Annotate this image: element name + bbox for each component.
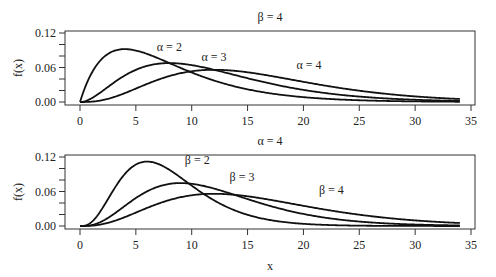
x-tick-label: 25 xyxy=(353,114,365,128)
y-tick-label: 0.00 xyxy=(35,219,56,233)
x-tick-label: 35 xyxy=(465,114,477,128)
x-tick-label: 5 xyxy=(133,238,139,252)
x-tick-label: 30 xyxy=(409,238,421,252)
plot-frame xyxy=(65,155,475,229)
curve-label: β = 4 xyxy=(319,183,344,197)
x-axis-label: x xyxy=(267,259,273,273)
y-tick-label: 0.12 xyxy=(35,150,56,164)
y-axis-label: f(x) xyxy=(11,59,25,77)
density-curve xyxy=(80,70,460,102)
panel-title: α = 4 xyxy=(257,134,282,148)
curve-label: β = 3 xyxy=(230,170,255,184)
x-tick-label: 35 xyxy=(465,238,477,252)
y-tick-label: 0.06 xyxy=(35,185,56,199)
curve-label: α = 3 xyxy=(202,50,227,64)
x-tick-label: 10 xyxy=(186,114,198,128)
curve-label: β = 2 xyxy=(185,153,210,167)
curve-label: α = 2 xyxy=(157,40,182,54)
x-tick-label: 15 xyxy=(242,238,254,252)
x-tick-label: 20 xyxy=(297,238,309,252)
y-tick-label: 0.12 xyxy=(35,26,56,40)
density-curve xyxy=(80,194,460,226)
x-tick-label: 0 xyxy=(77,238,83,252)
y-tick-label: 0.00 xyxy=(35,95,56,109)
curve-label: α = 4 xyxy=(296,58,321,72)
x-tick-label: 20 xyxy=(297,114,309,128)
x-tick-label: 10 xyxy=(186,238,198,252)
panel-title: β = 4 xyxy=(258,10,283,24)
x-tick-label: 5 xyxy=(133,114,139,128)
y-tick-label: 0.06 xyxy=(35,61,56,75)
x-tick-label: 30 xyxy=(409,114,421,128)
x-tick-label: 0 xyxy=(77,114,83,128)
panel-top: β = 40.000.060.12f(x)05101520253035α = 2… xyxy=(11,10,477,128)
panel-bottom: α = 40.000.060.12f(x)05101520253035xβ = … xyxy=(11,134,477,273)
x-tick-label: 15 xyxy=(242,114,254,128)
y-axis-label: f(x) xyxy=(11,183,25,201)
density-curve xyxy=(80,162,460,226)
x-tick-label: 25 xyxy=(353,238,365,252)
chart-figure: β = 40.000.060.12f(x)05101520253035α = 2… xyxy=(0,0,496,277)
